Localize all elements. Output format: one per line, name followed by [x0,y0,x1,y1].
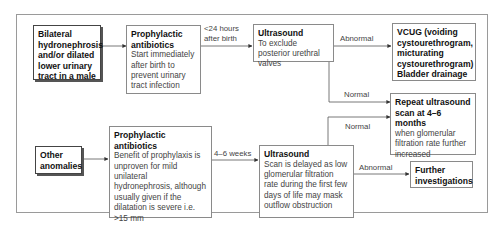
node-title: Prophylactic antibiotics [114,130,174,151]
node-title: Further investigations [415,165,468,186]
node-vcug: VCUG (voiding cystourethrogram, micturat… [392,23,476,81]
node-description: Benefit of prophylaxis is unproven for m… [114,151,207,224]
node-title: Repeat ultrasound scan at 4–6 months [395,97,471,129]
node-title: Ultrasound [258,28,329,39]
node-title: VCUG (voiding cystourethrogram, micturat… [397,27,471,80]
node-repeat-ultrasound: Repeat ultrasound scan at 4–6 months whe… [390,93,476,155]
node-title: Prophylactic antibiotics [131,29,196,50]
edge-label-4-6-weeks: 4–6 weeks [214,149,251,159]
node-description: To exclude posterior urethral valves [258,39,329,70]
node-title: Other anomalies [40,150,77,171]
node-description: when glomerular filtration rate further … [395,129,471,160]
edge-label-normal-top: Normal [344,90,369,100]
node-bilateral-hydronephrosis: Bilateral hydronephrosis and/or dilated … [33,25,101,80]
node-description: Scan is delayed as low glomerular filtra… [264,160,349,212]
node-title: Ultrasound [264,149,349,160]
node-ultrasound-bottom: Ultrasound Scan is delayed as low glomer… [259,145,354,218]
node-further-investigations: Further investigations [410,161,473,188]
edge-label-normal-bottom: Normal [345,122,370,132]
edge-label-abnormal-bottom: Abnormal [359,163,392,173]
edge-label-within-24-hours: <24 hours after birth [204,24,248,44]
node-other-anomalies: Other anomalies [35,146,82,174]
node-ultrasound-top: Ultrasound To exclude posterior urethral… [253,24,334,62]
node-prophylactic-antibiotics-top: Prophylactic antibiotics Start immediate… [126,25,201,94]
node-description: Start immediately after birth to prevent… [131,50,196,92]
node-prophylactic-antibiotics-bottom: Prophylactic antibiotics Benefit of prop… [109,126,212,218]
edge-label-abnormal-top: Abnormal [340,34,373,44]
node-title: Bilateral hydronephrosis and/or dilated … [38,29,96,82]
